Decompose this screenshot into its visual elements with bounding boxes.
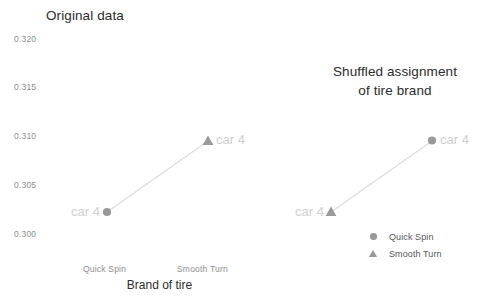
right-panel-circle-marker[interactable] [428,136,436,144]
left-panel-triangle-marker[interactable] [203,135,214,145]
left-panel-circle-point-label: car 4 [48,204,100,219]
x-axis-title: Brand of tire [62,278,257,292]
legend-label-quick-spin: Quick Spin [389,232,434,242]
legend-item-smooth-turn[interactable]: Smooth Turn [364,245,442,262]
left-panel-circle-marker[interactable] [103,208,111,216]
x-tick-label-smooth-turn: Smooth Turn [177,264,228,274]
legend: Quick Spin Smooth Turn [364,228,442,262]
right-panel-triangle-marker[interactable] [326,206,337,216]
x-tick-label-quick-spin: Quick Spin [83,264,126,274]
left-panel-connector-line [107,141,208,212]
legend-label-smooth-turn: Smooth Turn [389,249,442,259]
circle-marker-icon [364,230,382,244]
figure-canvas: Original data Shuffled assignment of tir… [0,0,497,302]
right-panel-circle-point-label: car 4 [440,132,497,147]
right-panel-triangle-point-label: car 4 [272,204,324,219]
left-panel-triangle-point-label: car 4 [216,132,276,147]
right-panel-connector-line [331,141,432,212]
triangle-marker-icon [364,247,382,261]
legend-item-quick-spin[interactable]: Quick Spin [364,228,442,245]
